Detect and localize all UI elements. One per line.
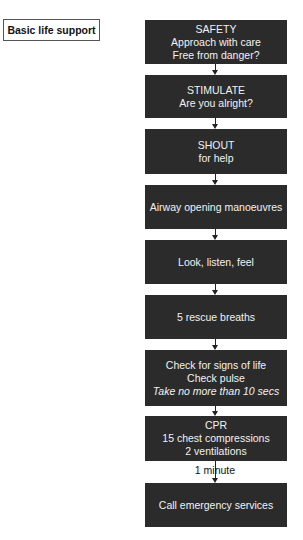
- step-cpr-line-2: 15 chest compressions: [162, 432, 269, 445]
- step-check-line-1: Check for signs of life: [166, 359, 266, 372]
- step-call-line-1: Call emergency services: [159, 499, 273, 512]
- edge-label-1-minute: 1 minute: [185, 464, 245, 477]
- step-shout: SHOUT for help: [145, 129, 287, 174]
- diagram-title: Basic life support: [3, 19, 100, 41]
- step-check-line-3: Take no more than 10 secs: [153, 385, 279, 398]
- step-airway: Airway opening manoeuvres: [145, 185, 287, 229]
- step-airway-line-1: Airway opening manoeuvres: [150, 201, 283, 214]
- step-safety-line-1: SAFETY: [196, 23, 237, 36]
- step-stimulate-line-2: Are you alright?: [179, 97, 253, 110]
- step-check-signs: Check for signs of life Check pulse Take…: [145, 350, 287, 406]
- step-safety-line-3: Free from danger?: [173, 49, 260, 62]
- step-check-line-2: Check pulse: [187, 372, 245, 385]
- step-stimulate: STIMULATE Are you alright?: [145, 75, 287, 118]
- step-look-listen-feel: Look, listen, feel: [145, 240, 287, 284]
- step-look-line-1: Look, listen, feel: [178, 256, 254, 269]
- step-call-emergency: Call emergency services: [145, 483, 287, 527]
- step-safety-line-2: Approach with care: [171, 36, 261, 49]
- step-shout-line-1: SHOUT: [198, 139, 235, 152]
- step-safety: SAFETY Approach with care Free from dang…: [145, 20, 287, 64]
- step-breaths-line-1: 5 rescue breaths: [177, 311, 255, 324]
- step-stimulate-line-1: STIMULATE: [187, 84, 245, 97]
- step-rescue-breaths: 5 rescue breaths: [145, 295, 287, 339]
- step-cpr-line-3: 2 ventilations: [185, 445, 246, 458]
- step-cpr: CPR 15 chest compressions 2 ventilations: [145, 416, 287, 461]
- step-shout-line-2: for help: [198, 152, 233, 165]
- step-cpr-line-1: CPR: [205, 419, 227, 432]
